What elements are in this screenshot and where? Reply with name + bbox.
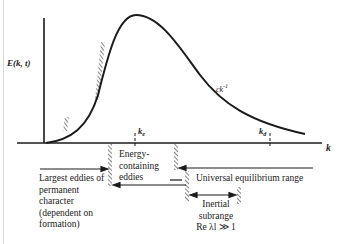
- x-axis-label: k: [326, 143, 331, 155]
- range-inertial-subrange: Inertial subrange Re λl ≫ 1: [194, 199, 238, 234]
- range-largest-line-3: character: [39, 196, 104, 208]
- range-inertial-line-1: Inertial: [194, 199, 238, 211]
- curve-annotation-exponent: -1: [223, 83, 228, 89]
- energy-spectrum-diagram: E(k, t) k ck-1 ke kd Largest eddies of p…: [0, 0, 340, 244]
- range-largest-line-2: permanent: [39, 185, 104, 197]
- range-energy-line-2: containing: [119, 161, 159, 173]
- range-energy-line-1: Energy-: [119, 149, 159, 161]
- range-energy-containing: Energy- containing eddies: [119, 149, 159, 184]
- curve-annotation: ck-1: [216, 81, 228, 96]
- range-universal-equilibrium: Universal equilibrium range: [196, 173, 303, 185]
- barrier-inertial-left: [185, 171, 189, 201]
- range-largest-line-5: formation): [39, 219, 104, 231]
- kd-label-sub: d: [263, 131, 266, 137]
- kd-label: kd: [259, 126, 266, 141]
- range-largest-line-4: (dependent on: [39, 208, 104, 220]
- range-largest-eddies: Largest eddies of permanent character (d…: [39, 173, 104, 231]
- barrier-energy-left: [108, 144, 112, 186]
- y-axis-label: E(k, t): [7, 58, 31, 70]
- hatch-curve-small: [63, 117, 69, 131]
- ke-label: ke: [138, 126, 145, 141]
- ke-label-sub: e: [142, 131, 145, 137]
- barrier-energy-right: [174, 144, 178, 170]
- range-inertial-line-2: subrange: [194, 211, 238, 223]
- spectrum-curve: [46, 15, 305, 143]
- range-largest-line-1: Largest eddies of: [39, 173, 104, 185]
- range-energy-line-3: eddies: [119, 172, 159, 184]
- range-inertial-line-3: Re λl ≫ 1: [194, 222, 238, 234]
